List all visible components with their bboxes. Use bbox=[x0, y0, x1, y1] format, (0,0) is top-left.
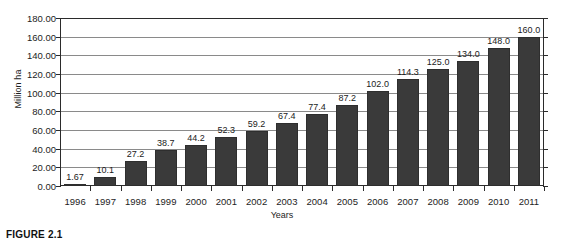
bar-slot: 27.2 bbox=[121, 18, 151, 186]
x-tick-mark bbox=[393, 186, 394, 191]
bar-slot: 10.1 bbox=[90, 18, 120, 186]
bar-slot: 52.3 bbox=[211, 18, 241, 186]
bar-slot: 102.0 bbox=[363, 18, 393, 186]
bar-slot: 148.0 bbox=[484, 18, 514, 186]
bar-2005[interactable] bbox=[336, 105, 358, 186]
bar-value-label: 148.0 bbox=[487, 36, 510, 46]
x-tick-mark bbox=[363, 186, 364, 191]
bar-slot: 87.2 bbox=[332, 18, 362, 186]
x-tick-mark bbox=[453, 186, 454, 191]
x-axis-tick-2005: 2005 bbox=[337, 196, 358, 207]
bar-1996[interactable] bbox=[64, 184, 86, 186]
x-axis-tick-2002: 2002 bbox=[246, 196, 267, 207]
x-axis-tick-2000: 2000 bbox=[186, 196, 207, 207]
bar-2011[interactable] bbox=[518, 37, 540, 186]
x-axis-tick-2001: 2001 bbox=[216, 196, 237, 207]
bar-chart: Million ha 0.0020.0040.0060.0080.00100.0… bbox=[0, 0, 564, 195]
bar-value-label: 77.4 bbox=[308, 102, 326, 112]
y-axis-tick-80.00: 80.00 bbox=[8, 106, 56, 117]
bar-value-label: 38.7 bbox=[157, 138, 175, 148]
bar-2000[interactable] bbox=[185, 145, 207, 186]
y-axis-tick-20.00: 20.00 bbox=[8, 162, 56, 173]
y-axis-tick-0.00: 0.00 bbox=[8, 181, 56, 192]
x-tick-mark bbox=[484, 186, 485, 191]
bar-value-label: 134.0 bbox=[457, 49, 480, 59]
bar-2010[interactable] bbox=[488, 48, 510, 186]
bar-2008[interactable] bbox=[427, 69, 449, 186]
bar-slot: 38.7 bbox=[151, 18, 181, 186]
y-axis-tick-160.00: 160.00 bbox=[8, 31, 56, 42]
x-axis-tick-2011: 2011 bbox=[519, 196, 539, 207]
bar-2009[interactable] bbox=[457, 61, 479, 186]
x-axis-tick-2010: 2010 bbox=[488, 196, 509, 207]
bar-slot: 160.0 bbox=[514, 18, 544, 186]
x-axis-label: Years bbox=[0, 210, 564, 220]
x-tick-mark bbox=[332, 186, 333, 191]
bar-value-label: 87.2 bbox=[339, 93, 357, 103]
bar-2003[interactable] bbox=[276, 123, 298, 186]
x-tick-mark bbox=[151, 186, 152, 191]
x-axis-tick-2006: 2006 bbox=[367, 196, 388, 207]
x-tick-mark bbox=[211, 186, 212, 191]
bar-1998[interactable] bbox=[125, 161, 147, 186]
bar-2007[interactable] bbox=[397, 79, 419, 186]
x-axis-tick-1997: 1997 bbox=[95, 196, 116, 207]
x-tick-mark bbox=[181, 186, 182, 191]
y-axis-tick-180.00: 180.00 bbox=[8, 13, 56, 24]
x-axis-tick-1996: 1996 bbox=[65, 196, 86, 207]
bar-value-label: 125.0 bbox=[427, 57, 450, 67]
figure-container: Million ha 0.0020.0040.0060.0080.00100.0… bbox=[0, 0, 564, 238]
bar-value-label: 114.3 bbox=[397, 67, 419, 77]
x-tick-mark bbox=[272, 186, 273, 191]
bar-2004[interactable] bbox=[306, 114, 328, 186]
y-axis-tick-40.00: 40.00 bbox=[8, 143, 56, 154]
x-tick-mark bbox=[514, 186, 515, 191]
y-axis-tick-100.00: 100.00 bbox=[8, 87, 56, 98]
x-axis-tick-2007: 2007 bbox=[397, 196, 418, 207]
x-axis-tick-2003: 2003 bbox=[276, 196, 297, 207]
x-tick-mark bbox=[121, 186, 122, 191]
x-tick-mark bbox=[302, 186, 303, 191]
y-axis-tick-140.00: 140.00 bbox=[8, 50, 56, 61]
bar-value-label: 27.2 bbox=[127, 149, 145, 159]
bar-2006[interactable] bbox=[367, 91, 389, 186]
figure-caption: FIGURE 2.1 bbox=[6, 229, 62, 238]
bar-value-label: 1.67 bbox=[66, 172, 84, 182]
x-tick-mark bbox=[242, 186, 243, 191]
bar-slot: 125.0 bbox=[423, 18, 453, 186]
bar-value-label: 44.2 bbox=[187, 133, 205, 143]
bar-slot: 59.2 bbox=[242, 18, 272, 186]
bar-value-label: 102.0 bbox=[366, 79, 389, 89]
bar-1997[interactable] bbox=[94, 177, 116, 186]
y-axis-tick-60.00: 60.00 bbox=[8, 125, 56, 136]
y-axis-tick-120.00: 120.00 bbox=[8, 69, 56, 80]
x-axis-tick-2008: 2008 bbox=[428, 196, 449, 207]
bar-value-label: 10.1 bbox=[97, 165, 115, 175]
bar-series: 1.6710.127.238.744.252.359.267.477.487.2… bbox=[60, 18, 544, 186]
bar-slot: 77.4 bbox=[302, 18, 332, 186]
plot-area: 1.6710.127.238.744.252.359.267.477.487.2… bbox=[60, 18, 544, 186]
bar-value-label: 67.4 bbox=[278, 111, 296, 121]
bar-slot: 44.2 bbox=[181, 18, 211, 186]
bar-slot: 114.3 bbox=[393, 18, 423, 186]
x-axis-tick-1999: 1999 bbox=[155, 196, 176, 207]
x-tick-mark bbox=[544, 186, 545, 191]
bar-slot: 134.0 bbox=[453, 18, 483, 186]
x-axis-tick-1998: 1998 bbox=[125, 196, 146, 207]
x-axis-tick-2009: 2009 bbox=[458, 196, 479, 207]
bar-2002[interactable] bbox=[246, 131, 268, 186]
bar-2001[interactable] bbox=[215, 137, 237, 186]
bar-value-label: 59.2 bbox=[248, 119, 266, 129]
bar-value-label: 160.0 bbox=[518, 25, 541, 35]
x-axis-tick-2004: 2004 bbox=[307, 196, 328, 207]
bar-slot: 1.67 bbox=[60, 18, 90, 186]
bar-value-label: 52.3 bbox=[218, 125, 236, 135]
x-tick-mark bbox=[90, 186, 91, 191]
bar-1999[interactable] bbox=[155, 150, 177, 186]
x-tick-mark bbox=[423, 186, 424, 191]
bar-slot: 67.4 bbox=[272, 18, 302, 186]
y-tick-mark bbox=[56, 186, 61, 187]
